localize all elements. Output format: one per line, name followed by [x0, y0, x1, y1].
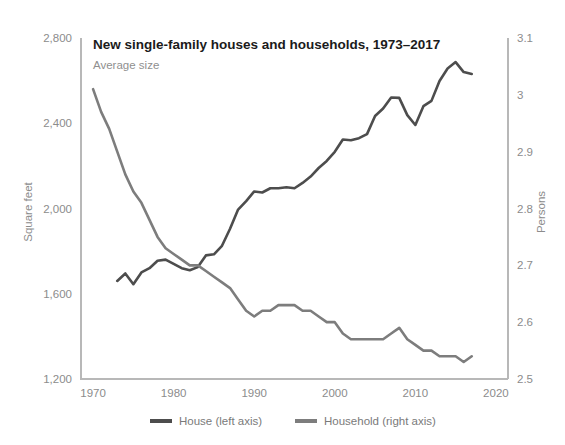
y-axis-right-tick-label: 2.7 [517, 259, 533, 271]
legend-label: House (left axis) [179, 415, 262, 427]
y-axis-left-tick-label: 2,000 [43, 203, 72, 215]
x-axis-tick-label: 1990 [241, 387, 267, 399]
y-axis-right-tick-label: 3 [517, 89, 523, 101]
y-axis-right-tick-label: 2.6 [517, 316, 533, 328]
y-axis-left-tick-label: 1,200 [43, 373, 72, 385]
chart-background [0, 0, 565, 445]
x-axis-tick-label: 2010 [403, 387, 429, 399]
x-axis-tick-label: 1980 [161, 387, 187, 399]
y-axis-right-tick-label: 2.5 [517, 373, 533, 385]
y-axis-right-tick-label: 2.8 [517, 203, 533, 215]
y-axis-right-title: Persons [535, 191, 547, 233]
y-axis-left-tick-label: 1,600 [43, 288, 72, 300]
x-axis-tick-label: 2020 [483, 387, 509, 399]
x-axis-tick-label: 2000 [322, 387, 348, 399]
y-axis-left-tick-label: 2,800 [43, 32, 72, 44]
y-axis-right-tick-label: 2.9 [517, 146, 533, 158]
chart-container: New single-family houses and households,… [0, 0, 565, 445]
y-axis-left-tick-label: 2,400 [43, 117, 72, 129]
line-chart: New single-family houses and households,… [0, 0, 565, 445]
legend-label: Household (right axis) [324, 415, 436, 427]
y-axis-right-tick-label: 3.1 [517, 32, 533, 44]
chart-title: New single-family houses and households,… [93, 37, 440, 52]
chart-subtitle: Average size [93, 59, 159, 71]
x-axis-tick-label: 1970 [80, 387, 106, 399]
y-axis-left-title: Square feet [22, 181, 34, 241]
